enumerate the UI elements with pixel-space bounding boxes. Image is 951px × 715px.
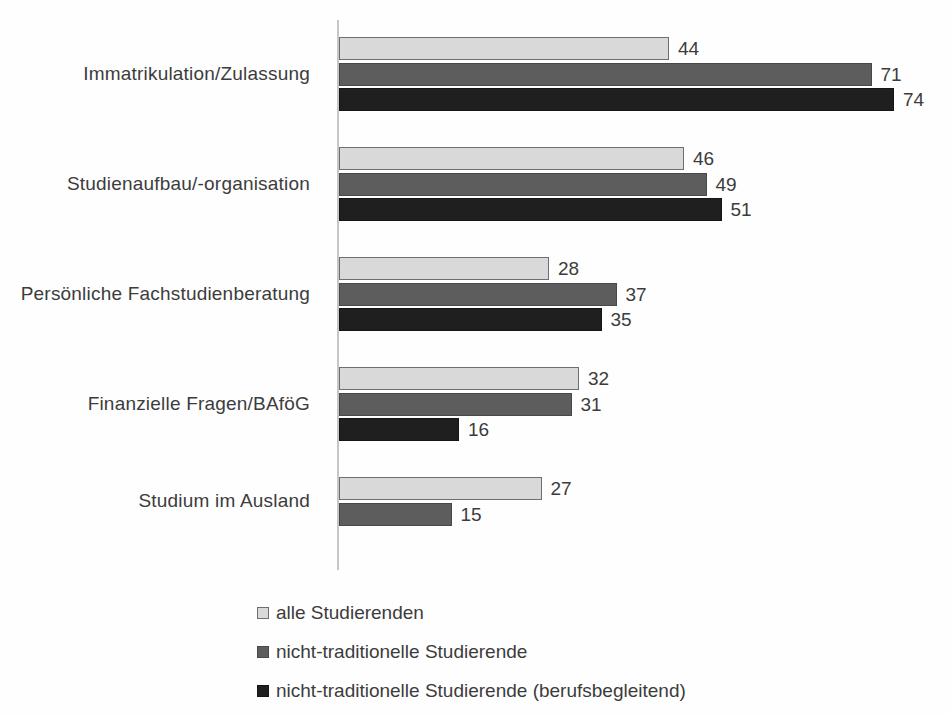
category-label: Studienaufbau/-organisation bbox=[0, 147, 324, 221]
legend-item: alle Studierenden bbox=[257, 602, 424, 624]
legend-swatch bbox=[257, 646, 269, 658]
bar-series2-cat3 bbox=[339, 283, 617, 306]
bar-series3-cat2 bbox=[339, 198, 722, 221]
legend-item: nicht-traditionelle Studierende (berufsb… bbox=[257, 680, 686, 702]
value-label: 37 bbox=[626, 283, 647, 306]
value-label: 15 bbox=[461, 503, 482, 526]
value-label: 71 bbox=[881, 63, 902, 86]
bar-series3-cat3 bbox=[339, 308, 602, 331]
legend-swatch bbox=[257, 685, 269, 697]
value-label: 28 bbox=[558, 257, 579, 280]
bar-series2-cat4 bbox=[339, 393, 572, 416]
bar-series1-cat1 bbox=[339, 37, 669, 60]
value-label: 35 bbox=[611, 308, 632, 331]
value-label: 74 bbox=[903, 88, 924, 111]
bar-series3-cat1 bbox=[339, 88, 894, 111]
bar-series2-cat5 bbox=[339, 503, 452, 526]
bar-series3-cat4 bbox=[339, 418, 459, 441]
legend-label: alle Studierenden bbox=[276, 602, 424, 624]
bar-series1-cat5 bbox=[339, 477, 542, 500]
value-label: 49 bbox=[716, 173, 737, 196]
legend-label: nicht-traditionelle Studierende (berufsb… bbox=[276, 680, 686, 702]
bar-series1-cat4 bbox=[339, 367, 579, 390]
value-label: 51 bbox=[731, 198, 752, 221]
value-label: 16 bbox=[468, 418, 489, 441]
value-label: 27 bbox=[551, 477, 572, 500]
value-label: 32 bbox=[588, 367, 609, 390]
value-label: 44 bbox=[678, 37, 699, 60]
category-label: Immatrikulation/Zulassung bbox=[0, 37, 324, 111]
legend-item: nicht-traditionelle Studierende bbox=[257, 641, 527, 663]
bar-series2-cat1 bbox=[339, 63, 872, 86]
bar-series2-cat2 bbox=[339, 173, 707, 196]
bar-series1-cat3 bbox=[339, 257, 549, 280]
category-label: Persönliche Fachstudienberatung bbox=[0, 257, 324, 331]
category-label: Studium im Ausland bbox=[0, 477, 324, 526]
value-label: 31 bbox=[581, 393, 602, 416]
value-label: 46 bbox=[693, 147, 714, 170]
bar-chart: Immatrikulation/Zulassung447174Studienau… bbox=[0, 0, 951, 715]
legend-label: nicht-traditionelle Studierende bbox=[276, 641, 527, 663]
bar-series1-cat2 bbox=[339, 147, 684, 170]
category-label: Finanzielle Fragen/BAföG bbox=[0, 367, 324, 441]
legend-swatch bbox=[257, 607, 269, 619]
